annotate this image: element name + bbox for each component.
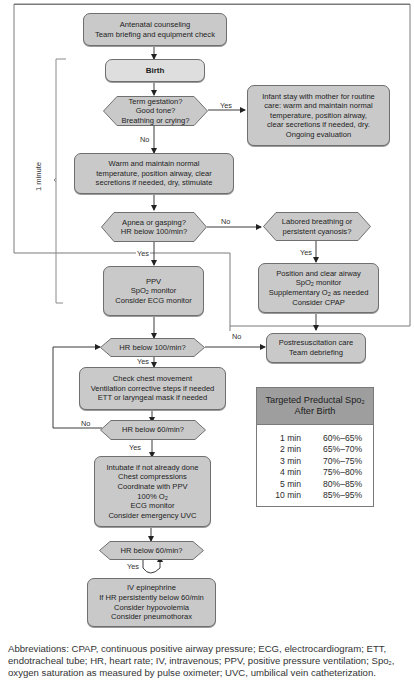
edge-label-hr100-no: No <box>231 332 242 341</box>
postresus-line-2: Team debriefing <box>289 348 343 358</box>
table-row: 2 min65%–70% <box>257 444 373 455</box>
ppv-line-3: Consider ECG monitor <box>115 296 191 306</box>
row-time: 5 min <box>257 479 301 490</box>
hr100-label: HR below 100/min? <box>119 343 185 352</box>
ppv-line-2: SpO2 monitor <box>131 286 177 296</box>
labored-breathing-decision: Labored breathing or persistent cyanosis… <box>263 212 371 241</box>
routine-line-2: care: warm and maintain normal <box>264 101 372 111</box>
hr60-2-label: HR below 60/min? <box>120 546 182 555</box>
hr-below-60-decision-1: HR below 60/min? <box>100 420 206 440</box>
ppv-monitor-text: monitor <box>149 286 176 295</box>
row-range: 60%–65% <box>323 433 362 444</box>
table-row: 5 min80%–85% <box>257 479 373 490</box>
routine-line-5: Ongoing evaluation <box>286 130 351 140</box>
term-line-1: Term gestation? <box>128 97 182 106</box>
spo2-table-title: Targeted Preductal Spo2 <box>265 395 364 406</box>
ppv-spo-text: SpO <box>131 286 146 295</box>
intubate-box: Intubate if not already done Chest compr… <box>94 456 211 527</box>
table-row: 4 min75%–80% <box>257 467 373 478</box>
position-airway-box: Position and clear airway SpO2 monitor S… <box>258 263 379 313</box>
table-row: 3 min70%–75% <box>257 456 373 467</box>
position-line-1: Position and clear airway <box>276 269 360 279</box>
postresuscitation-box: Postresuscitation care Team debriefing <box>266 333 366 363</box>
term-line-3: Breathing or crying? <box>122 116 190 125</box>
epi-line-4: Consider pneumothorax <box>111 612 192 622</box>
intubate-o2-text: 100% O <box>137 492 164 501</box>
epi-line-1: IV epinephrine <box>127 583 176 593</box>
intubate-line-3: Coordinate with PPV <box>117 482 187 492</box>
check-chest-box: Check chest movement Ventilation correct… <box>79 367 226 410</box>
warm-stimulate-box: Warm and maintain normal temperature, po… <box>74 153 234 194</box>
edge-label-apnea-no: No <box>220 217 231 226</box>
position-as-needed-text: as needed <box>331 288 369 297</box>
spo2-title-line-2: After Birth <box>295 406 336 417</box>
apnea-line-2: HR below 100/min? <box>121 227 187 236</box>
routine-line-3: temperature, position airway, <box>270 111 367 121</box>
intubate-line-1: Intubate if not already done <box>106 463 198 473</box>
spo2-target-table: Targeted Preductal Spo2 After Birth 1 mi… <box>256 387 374 507</box>
spo2-title-sub: 2 <box>361 399 364 405</box>
table-row: 1 min60%–65% <box>257 433 373 444</box>
chest-line-1: Check chest movement <box>113 374 192 384</box>
edge-label-labored-yes: Yes <box>299 248 313 257</box>
edge-label-term-yes: Yes <box>219 101 233 110</box>
edge-label-apnea-yes: Yes <box>136 249 150 258</box>
abbr-text-1: Abbreviations: CPAP, continuous positive… <box>8 643 389 666</box>
routine-line-1: Infant stay with mother for routine <box>262 92 375 102</box>
row-time: 4 min <box>257 467 301 478</box>
chest-line-3: ETT or laryngeal mask if needed <box>98 393 208 403</box>
edge-label-hr100-yes: Yes <box>136 357 150 366</box>
term-line-2: Good tone? <box>136 106 176 115</box>
epinephrine-box: IV epinephrine If HR persistently below … <box>87 578 216 627</box>
hr60-1-label: HR below 60/min? <box>122 425 184 434</box>
row-range: 65%–70% <box>323 444 362 455</box>
epi-line-3: Consider hypovolemia <box>114 603 189 613</box>
labored-line-2: persistent cyanosis? <box>283 227 352 236</box>
abbreviations-footnote: Abbreviations: CPAP, continuous positive… <box>8 643 408 679</box>
position-o2-text: Supplementary O <box>269 288 328 297</box>
warm-line-2: temperature, position airway, clear <box>96 169 212 179</box>
antenatal-line-2: Team briefing and equipment check <box>95 30 215 40</box>
apnea-line-1: Apnea or gasping? <box>122 218 186 227</box>
edge-label-hr60-1-yes: Yes <box>128 443 142 452</box>
intubate-line-2: Chest compressions <box>118 472 187 482</box>
edge-label-hr60-1-no: No <box>80 419 91 428</box>
row-range: 75%–80% <box>323 467 362 478</box>
row-time: 10 min <box>257 490 301 501</box>
apnea-gasping-decision: Apnea or gasping? HR below 100/min? <box>101 212 207 242</box>
labored-line-1: Labored breathing or <box>282 217 353 226</box>
intubate-o2-sub: 2 <box>165 495 168 501</box>
spo2-table-body: 1 min60%–65% 2 min65%–70% 3 min70%–75% 4… <box>257 425 373 501</box>
edge-label-hr60-2-yes: Yes <box>126 562 140 571</box>
spo2-title-text: Targeted Preductal Spo <box>265 395 361 405</box>
routine-line-4: clear secretions if needed, dry. <box>267 120 370 130</box>
ppv-box: PPV SpO2 monitor Consider ECG monitor <box>103 266 204 316</box>
routine-care-box: Infant stay with mother for routine care… <box>247 85 390 146</box>
hr-below-100-decision: HR below 100/min? <box>100 338 205 357</box>
position-spo-text: SpO <box>296 278 311 287</box>
birth-label: Birth <box>146 66 165 76</box>
warm-line-3: secretions if needed, dry, stimulate <box>96 178 213 188</box>
position-line-4: Consider CPAP <box>292 298 345 308</box>
row-range: 85%–95% <box>323 490 362 501</box>
postresus-line-1: Postresuscitation care <box>279 338 354 348</box>
row-time: 3 min <box>257 456 301 467</box>
row-time: 2 min <box>257 444 301 455</box>
edge-label-term-no: No <box>139 135 150 144</box>
hr-below-60-decision-2: HR below 60/min? <box>99 541 204 560</box>
warm-line-1: Warm and maintain normal <box>109 159 200 169</box>
intubate-line-4: 100% O2 <box>137 492 168 502</box>
row-range: 70%–75% <box>323 456 362 467</box>
antenatal-line-1: Antenatal counseling <box>120 20 191 30</box>
term-gestation-decision: Term gestation? Good tone? Breathing or … <box>103 96 208 126</box>
birth-box: Birth <box>105 59 205 82</box>
time-bracket-label: 1 minute <box>34 162 43 191</box>
spo2-table-header: Targeted Preductal Spo2 After Birth <box>257 388 373 425</box>
row-range: 80%–85% <box>323 479 362 490</box>
position-monitor-text: monitor <box>314 278 341 287</box>
epi-line-2: If HR persistently below 60/min <box>99 593 204 603</box>
antenatal-counseling-box: Antenatal counseling Team briefing and e… <box>83 13 227 46</box>
position-line-2: SpO2 monitor <box>296 278 342 288</box>
row-time: 1 min <box>257 433 301 444</box>
position-line-3: Supplementary O2 as needed <box>269 288 369 298</box>
